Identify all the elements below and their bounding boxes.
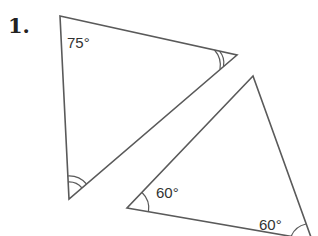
angle-mark-a-bottom-outer: [68, 176, 87, 184]
triangle-b-outline: [127, 76, 312, 236]
triangle-b: 60° 60°: [127, 76, 312, 236]
angle-mark-a-bottom-inner: [68, 182, 82, 188]
angle-mark-b-left: [142, 193, 149, 212]
angle-label-75: 75°: [67, 34, 90, 51]
angle-mark-a-right-outer: [215, 50, 221, 69]
triangle-a: 75°: [60, 16, 237, 199]
angle-mark-b-bottom-right: [291, 224, 306, 236]
angle-label-60-right: 60°: [259, 216, 282, 233]
triangles-diagram: 75° 60° 60°: [0, 0, 318, 236]
angle-label-60-left: 60°: [156, 184, 179, 201]
